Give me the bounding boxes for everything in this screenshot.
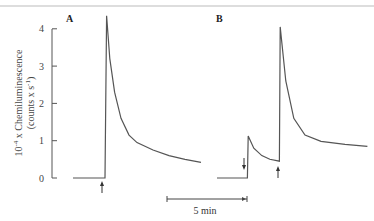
panel-label-a: A <box>66 13 74 24</box>
trace-panel-a <box>73 16 201 178</box>
panel-label-b: B <box>216 13 223 24</box>
arrow-up-icon <box>100 181 104 193</box>
time-scale-bar: 5 min <box>167 196 247 216</box>
trace-panel-b <box>217 27 367 178</box>
svg-text:10-4 x Chemiluminescence: 10-4 x Chemiluminescence <box>12 49 24 156</box>
arrow-down-icon <box>242 158 246 170</box>
y-tick-label: 3 <box>39 61 44 72</box>
y-tick-label: 0 <box>39 173 44 184</box>
chemiluminescence-chart: 10-4 x Chemiluminescence (counts x s-1) … <box>0 0 374 221</box>
y-tick-label: 2 <box>39 98 44 109</box>
scale-bar-label: 5 min <box>193 205 216 216</box>
y-tick-label: 4 <box>39 23 44 34</box>
y-axis-label: 10-4 x Chemiluminescence (counts x s-1) <box>12 49 37 156</box>
y-tick-label: 1 <box>39 135 44 146</box>
y-axis: 01234 <box>39 23 57 183</box>
arrow-up-icon <box>276 166 280 178</box>
svg-text:(counts x s-1): (counts x s-1) <box>24 77 37 130</box>
